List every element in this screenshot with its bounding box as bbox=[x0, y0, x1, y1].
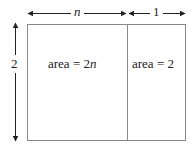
height-2-label: 2 bbox=[10, 55, 19, 73]
width-1-label: 1 bbox=[150, 5, 163, 19]
outer-rectangle bbox=[28, 25, 186, 141]
diagram-canvas bbox=[0, 0, 196, 154]
width-n-label: n bbox=[71, 5, 84, 19]
region-right-area-label: area = 2 bbox=[132, 57, 174, 71]
region-left-area-label: area = 2n bbox=[48, 57, 96, 71]
